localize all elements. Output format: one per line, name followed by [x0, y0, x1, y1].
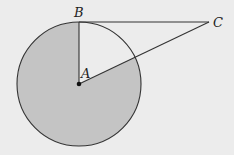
label-c: C — [213, 15, 223, 30]
label-a: A — [80, 66, 90, 81]
geometry-diagram: B A C — [0, 0, 234, 155]
label-b: B — [73, 5, 84, 20]
center-point-a — [77, 82, 82, 87]
